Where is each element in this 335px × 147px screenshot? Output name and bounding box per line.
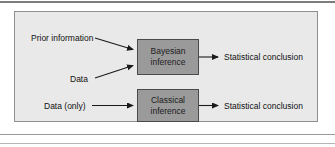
node-bayesian-line-1: Bayesian: [151, 46, 186, 57]
node-bayesian-line-2: inference: [151, 57, 186, 68]
label-data-only: Data (only): [44, 101, 86, 111]
label-statistical-conclusion-bayesian: Statistical conclusion: [224, 52, 303, 62]
node-classical-line-2: inference: [151, 106, 186, 117]
bottom-divider-rule: [0, 134, 335, 135]
arrow-prior-to-bayesian: [95, 38, 133, 50]
node-classical-line-1: Classical: [151, 95, 185, 106]
node-classical-inference: Classical inference: [137, 89, 199, 122]
figure-panel: Bayesian inference Classical inference P…: [14, 11, 318, 122]
node-bayesian-inference: Bayesian inference: [137, 39, 199, 75]
arrow-data-to-bayesian: [95, 66, 133, 79]
label-data: Data: [70, 74, 88, 84]
top-divider-rule: [0, 1, 335, 3]
label-prior-information: Prior information: [31, 33, 93, 43]
label-statistical-conclusion-classical: Statistical conclusion: [224, 101, 303, 111]
footer-divider-rule: [0, 143, 335, 144]
